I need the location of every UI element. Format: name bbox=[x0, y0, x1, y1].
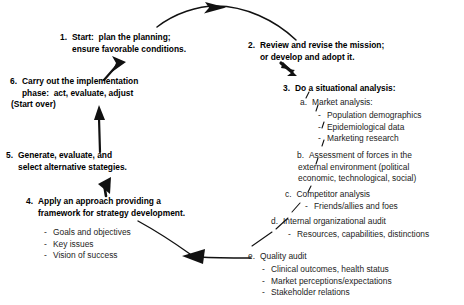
step-6-marker: 6. bbox=[10, 76, 17, 86]
step-4-bullets: - Goals and objectives - Key issues - Vi… bbox=[44, 227, 131, 262]
bullet-dash: - bbox=[262, 264, 271, 276]
step-1-marker: 1. bbox=[60, 32, 67, 42]
bullet-dash: - bbox=[288, 229, 297, 241]
substep-d: d. Internal organizational audit bbox=[271, 216, 386, 228]
list-item: - Resources, capabilities, distinctions bbox=[288, 229, 429, 241]
substep-b-line-1: Assessment of forces in the bbox=[309, 150, 416, 162]
list-item: - Key issues bbox=[44, 239, 131, 251]
arrow-step6-to-step5-tail bbox=[99, 118, 100, 152]
step-1-line-1: Start: plan the planning; bbox=[72, 32, 186, 44]
step-3-line-1: Do a situational analysis: bbox=[295, 83, 396, 95]
substep-a-marker: a. bbox=[300, 97, 307, 107]
substep-b-marker: b. bbox=[297, 150, 304, 160]
substep-e-line-1: Quality audit bbox=[260, 251, 307, 263]
substep-c: c. Competitor analysis bbox=[285, 189, 370, 201]
arrowhead-quality-audit-to-step4 bbox=[182, 249, 205, 264]
bullet-dash: - bbox=[262, 287, 271, 299]
substep-e: e. Quality audit bbox=[248, 251, 307, 263]
step-5: 5. Generate, evaluate, and select altern… bbox=[6, 150, 127, 173]
list-item: - Friends/allies and foes bbox=[305, 201, 398, 213]
step-2: 2. Review and revise the mission; or dev… bbox=[248, 40, 384, 63]
bullet-text: Population demographics bbox=[327, 110, 422, 122]
bullet-text: Clinical outcomes, health status bbox=[271, 264, 389, 276]
substep-d-marker: d. bbox=[271, 216, 278, 226]
step-4-line-2: framework for strategy development. bbox=[38, 208, 185, 220]
arrowhead-step5-to-step4 bbox=[98, 177, 111, 194]
bullet-dash: - bbox=[318, 133, 327, 145]
bullet-text: Marketing research bbox=[327, 133, 399, 145]
list-item: - Vision of success bbox=[44, 250, 131, 262]
substep-c-line-1: Competitor analysis bbox=[297, 189, 371, 201]
arrow-quality-audit-to-step4 bbox=[200, 257, 251, 258]
step-2-marker: 2. bbox=[248, 40, 255, 50]
substep-d-bullets: - Resources, capabilities, distinctions bbox=[288, 229, 429, 241]
step-3-marker: 3. bbox=[283, 83, 290, 93]
list-item: - Epidemiological data bbox=[318, 122, 422, 134]
step-6-line-2: phase: act, evaluate, adjust bbox=[22, 88, 138, 100]
step-5-line-2: select alternative stategies. bbox=[18, 162, 127, 174]
step-6-line-1: Carry out the implementation bbox=[22, 76, 138, 88]
list-item: - Market perceptions/expectations bbox=[262, 276, 392, 288]
strategic-planning-cycle-diagram: 1. Start: plan the planning; ensure favo… bbox=[0, 0, 464, 305]
substep-c-bullets: - Friends/allies and foes bbox=[305, 201, 398, 213]
bullet-text: Epidemiological data bbox=[327, 122, 404, 134]
bullet-dash: - bbox=[262, 276, 271, 288]
step-4-marker: 4. bbox=[26, 196, 33, 206]
bullet-text: Resources, capabilities, distinctions bbox=[297, 229, 429, 241]
substep-e-marker: e. bbox=[248, 251, 255, 261]
bullet-text: Market perceptions/expectations bbox=[271, 276, 392, 288]
bullet-text: Stakeholder relations bbox=[271, 287, 350, 299]
list-item: - Stakeholder relations bbox=[262, 287, 392, 299]
arrowhead-step1-to-step2 bbox=[204, 2, 226, 14]
bullet-text: Key issues bbox=[53, 239, 94, 251]
step-1: 1. Start: plan the planning; ensure favo… bbox=[60, 32, 186, 55]
step-2-line-1: Review and revise the mission; bbox=[260, 40, 384, 52]
substep-a: a. Market analysis: bbox=[300, 97, 373, 109]
substep-b-line-3: economic, technological, social) bbox=[298, 173, 416, 185]
arrow-step2-to-step3 bbox=[281, 62, 297, 76]
substep-a-line-1: Market analysis: bbox=[312, 97, 373, 109]
step-4: 4. Apply an approach providing a framewo… bbox=[26, 196, 185, 219]
step-3: 3. Do a situational analysis: bbox=[283, 83, 396, 95]
bullet-dash: - bbox=[44, 227, 53, 239]
list-item: - Marketing research bbox=[318, 133, 422, 145]
substep-c-marker: c. bbox=[285, 189, 292, 199]
list-item: - Goals and objectives bbox=[44, 227, 131, 239]
substep-a-bullets: - Population demographics - Epidemiologi… bbox=[318, 110, 422, 145]
substep-b-line-2: external environment (political bbox=[298, 162, 416, 174]
bullet-text: Goals and objectives bbox=[53, 227, 131, 239]
list-item: - Clinical outcomes, health status bbox=[262, 264, 392, 276]
bullet-dash: - bbox=[318, 122, 327, 134]
step-4-line-1: Apply an approach providing a bbox=[38, 196, 185, 208]
step-1-line-2: ensure favorable conditions. bbox=[72, 44, 186, 56]
step-6: 6. Carry out the implementation phase: a… bbox=[10, 76, 138, 111]
step-5-marker: 5. bbox=[6, 150, 13, 160]
connector-step4-to-bottom-curve bbox=[138, 221, 190, 254]
substep-d-line-1: Internal organizational audit bbox=[283, 216, 386, 228]
arrowhead-step1-to-step6 bbox=[112, 56, 126, 72]
step-5-line-1: Generate, evaluate, and bbox=[18, 150, 127, 162]
bullet-text: Vision of success bbox=[53, 250, 118, 262]
arrow-step2-to-step3-tail bbox=[281, 63, 292, 72]
substep-e-bullets: - Clinical outcomes, health status - Mar… bbox=[262, 264, 392, 299]
bullet-dash: - bbox=[44, 250, 53, 262]
bullet-dash: - bbox=[318, 110, 327, 122]
list-item: - Population demographics bbox=[318, 110, 422, 122]
arrow-step5-to-step4-tail bbox=[104, 184, 106, 196]
bullet-dash: - bbox=[44, 239, 53, 251]
step-2-line-2: or develop and adopt it. bbox=[260, 52, 384, 64]
bullet-dash: - bbox=[305, 201, 314, 213]
substep-b: b. Assessment of forces in the external … bbox=[297, 150, 416, 185]
bullet-text: Friends/allies and foes bbox=[314, 201, 398, 213]
step-6-line-3: (Start over) bbox=[11, 99, 138, 111]
